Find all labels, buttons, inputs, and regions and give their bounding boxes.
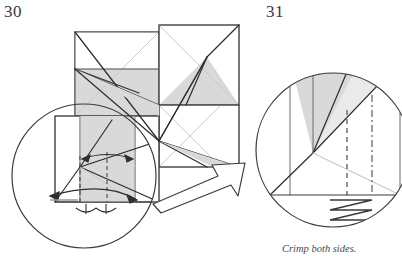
zigzag-pleat-icon xyxy=(330,200,372,220)
step-31-number: 31 xyxy=(266,3,284,20)
right-lens-contents xyxy=(270,60,402,220)
right-magnifier-lens xyxy=(0,0,402,256)
step-30-number: 30 xyxy=(4,3,22,20)
diagram-page: 30 31 Crimp both sides. xyxy=(0,0,402,256)
step-caption: Crimp both sides. xyxy=(282,243,402,255)
